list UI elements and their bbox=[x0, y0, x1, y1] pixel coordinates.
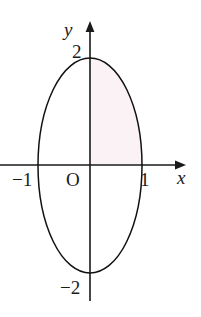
first-quadrant-region bbox=[90, 58, 142, 165]
origin-label: O bbox=[66, 170, 80, 189]
x-tick-label-1: 1 bbox=[140, 170, 150, 189]
y-axis-label: y bbox=[64, 20, 72, 39]
x-tick-label-negative-1: −1 bbox=[12, 170, 32, 189]
up-arrow-icon bbox=[86, 21, 95, 32]
x-axis-label: x bbox=[177, 168, 185, 187]
coordinate-plot bbox=[0, 0, 201, 317]
figure-canvas: y 2 −1 O 1 x −2 bbox=[0, 0, 201, 317]
y-tick-label-2: 2 bbox=[72, 42, 82, 61]
y-tick-label-negative-2: −2 bbox=[60, 278, 80, 297]
